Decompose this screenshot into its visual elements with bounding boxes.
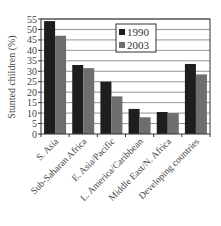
bar-2003 [83,68,94,134]
legend-label-2003: 2003 [127,39,150,51]
y-tick-label: 15 [27,97,37,108]
bar-2003 [196,74,207,134]
bar-2003 [168,113,179,134]
legend: 19902003 [116,24,156,52]
bar-1990 [44,21,55,134]
y-axis-label: Stunted children (%) [6,35,18,118]
bar-1990 [185,64,196,134]
y-tick-label: 40 [27,45,37,56]
legend-swatch-2003 [119,42,125,48]
y-tick-label: 0 [32,129,37,140]
y-tick-label: 25 [27,76,37,87]
x-axis-category-labels: S. AsiaSub-Saharan AfricaE. Asia/Pacific… [29,136,202,203]
y-axis-ticks: 0510152025303540455055 [27,14,41,140]
bar-1990 [72,65,83,134]
bar-2003 [55,36,66,134]
bar-chart: 0510152025303540455055 Stunted children … [0,0,221,226]
y-tick-label: 10 [27,108,37,119]
y-tick-label: 35 [27,55,37,66]
y-tick-label: 45 [27,34,37,45]
y-tick-label: 50 [27,24,37,35]
y-tick-label: 5 [32,118,37,129]
bar-1990 [100,82,111,134]
legend-label-1990: 1990 [127,26,150,38]
bar-2003 [140,117,151,134]
y-tick-label: 55 [27,14,37,25]
y-tick-label: 20 [27,87,37,98]
bar-2003 [111,96,122,134]
bar-1990 [129,109,140,134]
y-tick-label: 30 [27,66,37,77]
x-category-label: S. Asia [34,136,61,163]
legend-swatch-1990 [119,29,125,35]
bar-1990 [157,112,168,134]
